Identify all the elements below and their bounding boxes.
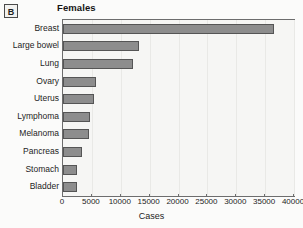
category-label: Lung — [40, 58, 59, 68]
bar-row — [63, 146, 294, 158]
bar — [63, 24, 274, 34]
x-tick-label: 15000 — [138, 197, 160, 206]
x-tick-label: 0 — [60, 197, 64, 206]
category-label: Bladder — [30, 181, 59, 191]
bar-row — [63, 40, 294, 52]
x-tick-label: 10000 — [109, 197, 131, 206]
category-axis-labels: BreastLarge bowelLungOvaryUterusLymphoma… — [0, 19, 59, 195]
x-tick-label: 20000 — [166, 197, 188, 206]
plot-area — [62, 19, 295, 197]
x-tick-label: 40000 — [282, 197, 303, 206]
gridline — [294, 20, 295, 196]
x-tick-mark — [91, 194, 92, 197]
bar — [63, 77, 96, 87]
bar-row — [63, 93, 294, 105]
x-tick-mark — [178, 194, 179, 197]
figure-panel: B Females BreastLarge bowelLungOvaryUter… — [0, 0, 303, 228]
x-tick-mark — [293, 194, 294, 197]
x-tick-mark — [235, 194, 236, 197]
x-tick-mark — [264, 194, 265, 197]
category-label: Lymphoma — [17, 111, 59, 121]
chart-title: Females — [57, 2, 96, 13]
bar-row — [63, 128, 294, 140]
category-label: Breast — [34, 23, 59, 33]
bar-row — [63, 76, 294, 88]
bar-row — [63, 181, 294, 193]
bar — [63, 112, 90, 122]
x-tick-mark — [206, 194, 207, 197]
bar — [63, 59, 133, 69]
category-label: Stomach — [25, 164, 59, 174]
panel-letter-label: B — [4, 4, 18, 18]
category-label: Large bowel — [13, 40, 59, 50]
bar-series — [63, 20, 294, 196]
bar — [63, 182, 77, 192]
bar — [63, 129, 89, 139]
bar-row — [63, 58, 294, 70]
bar — [63, 147, 82, 157]
category-label: Pancreas — [23, 146, 59, 156]
x-tick-label: 30000 — [224, 197, 246, 206]
x-tick-label: 35000 — [253, 197, 275, 206]
x-tick-mark — [120, 194, 121, 197]
bar-row — [63, 164, 294, 176]
x-axis-title: Cases — [0, 211, 303, 221]
bar — [63, 41, 139, 51]
x-axis-tick-labels: 0500010000150002000025000300003500040000 — [62, 197, 293, 209]
category-label: Uterus — [34, 93, 59, 103]
x-tick-mark — [149, 194, 150, 197]
x-tick-label: 25000 — [195, 197, 217, 206]
category-label: Ovary — [36, 76, 59, 86]
x-tick-mark — [62, 194, 63, 197]
bar — [63, 94, 94, 104]
x-tick-label: 5000 — [82, 197, 100, 206]
bar-row — [63, 111, 294, 123]
bar — [63, 165, 77, 175]
category-label: Melanoma — [19, 128, 59, 138]
bar-row — [63, 23, 294, 35]
